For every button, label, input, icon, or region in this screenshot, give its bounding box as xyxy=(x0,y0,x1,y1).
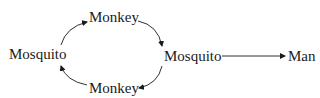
arrow-monkey-bottom-to-mosquito xyxy=(61,66,87,85)
arrow-mosquito-to-monkey-bottom xyxy=(139,66,162,88)
node-monkey-bottom: Monkey xyxy=(89,81,139,96)
node-mosquito-right: Mosquito xyxy=(164,49,222,64)
node-mosquito-left: Mosquito xyxy=(9,47,67,62)
node-monkey-top: Monkey xyxy=(89,10,139,25)
node-man: Man xyxy=(288,49,316,64)
transmission-cycle-diagram: Monkey Mosquito Monkey Mosquito Man xyxy=(0,0,320,98)
arrow-mosquito-to-monkey-top xyxy=(61,22,87,45)
arrow-monkey-top-to-mosquito xyxy=(138,21,162,46)
